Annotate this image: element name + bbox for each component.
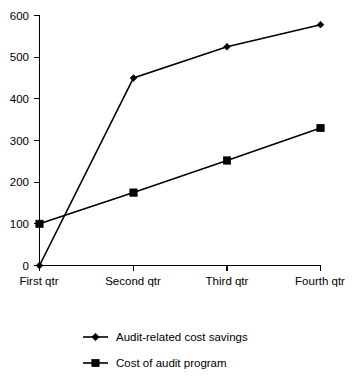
y-tick-label-300: 300 — [10, 135, 29, 147]
series-line-0 — [40, 25, 321, 266]
y-tick-label-500: 500 — [10, 51, 29, 63]
y-tick-label-200: 200 — [10, 176, 29, 188]
chart-legend: Audit-related cost savings Cost of audit… — [83, 331, 248, 369]
square-marker-icon — [92, 359, 99, 366]
y-tick-labels: 600 500 400 300 200 100 0 — [10, 10, 29, 272]
series-audit-related-cost-savings — [36, 21, 324, 269]
square-marker-icon — [317, 124, 324, 131]
diamond-marker-icon — [36, 262, 43, 269]
y-tick-label-400: 400 — [10, 93, 29, 105]
legend-item-cost-of-audit-program[interactable]: Cost of audit program — [83, 357, 227, 369]
x-axis — [40, 266, 321, 272]
series-line-1 — [40, 128, 321, 224]
x-tick-label-first-qtr: First qtr — [20, 275, 59, 287]
y-axis — [34, 15, 40, 266]
x-tick-label-second-qtr: Second qtr — [105, 275, 161, 287]
series-cost-of-audit-program — [36, 124, 324, 227]
series-layer — [36, 21, 324, 269]
diamond-marker-icon — [130, 75, 137, 82]
y-tick-label-600: 600 — [10, 10, 29, 22]
square-marker-icon — [36, 220, 43, 227]
x-tick-labels: First qtr Second qtr Third qtr Fourth qt… — [20, 275, 346, 287]
diamond-marker-icon — [92, 333, 100, 341]
square-marker-icon — [130, 189, 137, 196]
square-marker-icon — [223, 157, 230, 164]
diamond-marker-icon — [224, 43, 231, 50]
legend-label-0: Audit-related cost savings — [116, 331, 248, 343]
legend-label-1: Cost of audit program — [116, 357, 227, 369]
y-tick-label-0: 0 — [23, 260, 29, 272]
y-tick-label-100: 100 — [10, 218, 29, 230]
legend-item-audit-related-cost-savings[interactable]: Audit-related cost savings — [83, 331, 248, 343]
diamond-marker-icon — [317, 21, 324, 28]
x-tick-label-third-qtr: Third qtr — [206, 275, 249, 287]
x-tick-label-fourth-qtr: Fourth qtr — [295, 275, 345, 287]
chart-canvas: 600 500 400 300 200 100 0 First qtr Seco… — [0, 0, 356, 386]
line-chart: 600 500 400 300 200 100 0 First qtr Seco… — [0, 0, 356, 386]
